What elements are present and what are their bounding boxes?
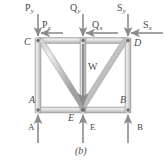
member-left-post [35,38,41,113]
member-left-diagonal-inner [40,42,86,111]
joint-dot-B [126,108,129,111]
joint-dot-E [81,108,85,112]
load-label-Qy: Qy [70,3,81,15]
load-label-Sy: Sy [117,3,126,15]
joint-label-B: B [120,95,126,105]
load-label-Py: Py [25,3,34,15]
joint-dot-A [36,108,39,111]
joint-label-C: C [24,37,31,47]
joint-label-E: E [68,113,74,123]
truss-drawing [0,0,166,160]
joint-dot-D [126,39,129,42]
joint-dot-C [36,39,39,42]
reaction-arrows [38,115,128,143]
joint-dot-top-middle [81,39,84,42]
load-label-Qx: Qx [92,20,103,32]
load-label-Px: Px [42,20,51,32]
reaction-label-B: B [137,123,143,132]
joint-label-D: D [134,38,141,48]
reaction-label-A: A [28,123,35,132]
reaction-label-E: E [90,123,96,132]
load-label-Sx: Sx [143,20,152,32]
figure-caption: (b) [75,146,87,156]
truss-free-body-diagram: Py Px Qy Qx Sy Sx W C D A B E A E B (b) [0,0,166,160]
load-label-W: W [88,62,97,72]
joint-label-A: A [29,95,35,105]
